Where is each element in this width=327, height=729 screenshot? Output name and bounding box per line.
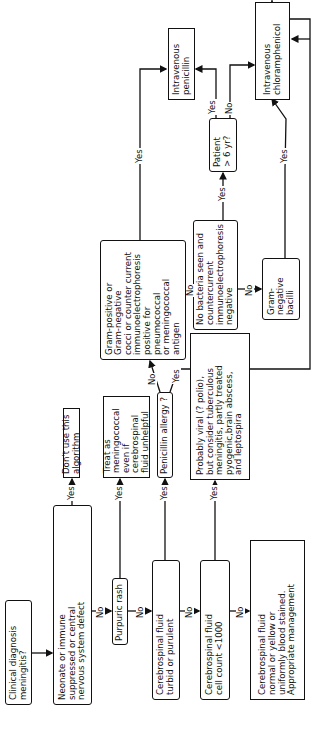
csf-turbid-node: Cerebrospinal fluid turbid or purulent [152, 560, 180, 700]
edge-label-yes: Yes [67, 485, 76, 501]
edge-label-yes: Yes [172, 368, 181, 384]
meningitis-algorithm-flowchart: Clinical diagnosis meningitis? Neonate o… [0, 0, 327, 729]
csf-normal-node: Cerebrospinal fluid normal or yellow or … [250, 540, 305, 700]
purpuric-rash-node: Purpuric rash [112, 578, 128, 645]
edge-label-yes: Yes [280, 148, 289, 164]
probably-viral-node: Probably viral (? polio), but consider t… [190, 333, 250, 480]
dont-use-node: Don't use this algorithm [63, 408, 80, 478]
edge-label-yes: Yes [208, 99, 217, 115]
edge-label-yes: Yes [160, 485, 169, 501]
edge-label-no: No [96, 606, 105, 619]
edge-label-no: No [185, 606, 194, 619]
edge-label-no: No [186, 284, 195, 297]
edge-label-no: No [225, 102, 234, 115]
edge-label-no: No [236, 606, 245, 619]
edge-label-no: No [136, 606, 145, 619]
edge-label-yes: Yes [218, 186, 227, 202]
edge-label-yes: Yes [135, 148, 144, 164]
edge-label-no: No [245, 284, 254, 297]
edge-label-yes: Yes [115, 485, 124, 501]
gram-positive-node: Gram-positive or Gram-negative cocci or … [100, 240, 186, 360]
no-bacteria-node: No bacteria seen and countercurrent immu… [193, 220, 238, 330]
iv-penicillin-node: Intravenous penicillin [168, 28, 195, 100]
gram-negative-bacilli-node: Gram-negative bacilli [262, 258, 300, 320]
treat-meningococcal-node: Treat as meningococcal even if cerebrosp… [103, 396, 150, 478]
patient-age-node: Patient > 6 yr? [209, 118, 237, 172]
neonate-immune-node: Neonate or immune suppressed or central … [53, 505, 92, 705]
iv-chloramphenicol-node: Intravenous chloramphenicol [255, 2, 290, 100]
edge-label-no: No [148, 373, 157, 386]
csf-cell-count-node: Cerebrospinal fluid cell count <1000 [200, 560, 230, 700]
clinical-diagnosis-node: Clinical diagnosis meningitis? [5, 600, 32, 705]
edge-label-yes: Yes [210, 485, 219, 501]
penicillin-allergy-node: Penicillin allergy ? [157, 392, 173, 478]
